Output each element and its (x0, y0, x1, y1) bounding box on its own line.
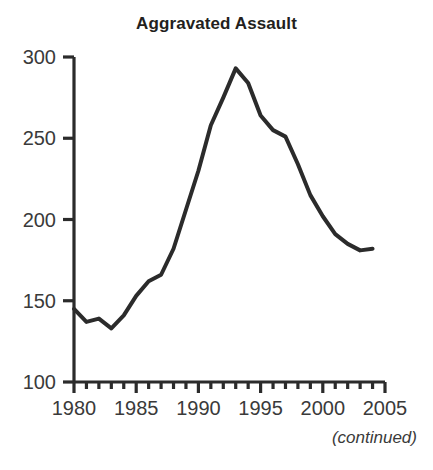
y-tick-label: 100 (23, 371, 56, 393)
x-tick-label: 1995 (238, 397, 283, 419)
continued-note: (continued) (332, 428, 417, 448)
x-tick-label: 2005 (363, 397, 408, 419)
x-tick-label: 1990 (176, 397, 221, 419)
x-tick-label: 2000 (301, 397, 346, 419)
y-tick-label: 300 (23, 46, 56, 68)
x-axis: 198019851990199520002005 (52, 382, 408, 419)
chart-figure: Aggravated Assault 100150200250300 19801… (0, 0, 433, 470)
y-tick-label: 250 (23, 127, 56, 149)
data-series (74, 68, 373, 328)
series-line (74, 68, 373, 328)
x-tick-label: 1985 (114, 397, 159, 419)
y-axis: 100150200250300 (23, 46, 74, 393)
y-tick-label: 200 (23, 209, 56, 231)
y-tick-label: 150 (23, 290, 56, 312)
x-tick-label: 1980 (52, 397, 97, 419)
line-chart-plot: 100150200250300 198019851990199520002005 (0, 0, 433, 470)
